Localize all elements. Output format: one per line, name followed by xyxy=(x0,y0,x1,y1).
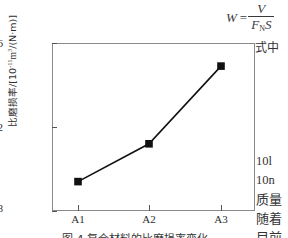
formula-equals: = xyxy=(240,10,247,26)
data-point-a1 xyxy=(74,178,82,186)
formula-den-f: F xyxy=(251,17,259,32)
body-text-block: 10l 10n 质量 随着 目前 xyxy=(256,152,282,238)
body-line-1: 10l xyxy=(256,152,282,171)
body-line-5: 目前 xyxy=(256,228,282,238)
text-column: W = V FNS 式中 10l 10n 质量 随着 目前 xyxy=(176,0,288,238)
formula-numerator: V xyxy=(254,2,268,16)
formula-denominator: FNS xyxy=(248,17,274,33)
data-point-a2 xyxy=(145,140,153,148)
formula-fraction: V FNS xyxy=(248,2,274,33)
formula-lhs: W xyxy=(226,10,237,26)
figure-page: 比磨损率/[10-11m3/(N·m)] 16 12 8 A1 A2 A3 图 … xyxy=(0,0,288,238)
formula-den-s: S xyxy=(265,17,272,32)
body-line-4: 随着 xyxy=(256,209,282,228)
body-line-3: 质量 xyxy=(256,190,282,209)
formula-note: 式中 xyxy=(255,38,279,55)
body-line-2: 10n xyxy=(256,171,282,190)
wear-rate-formula: W = V FNS xyxy=(226,2,274,33)
